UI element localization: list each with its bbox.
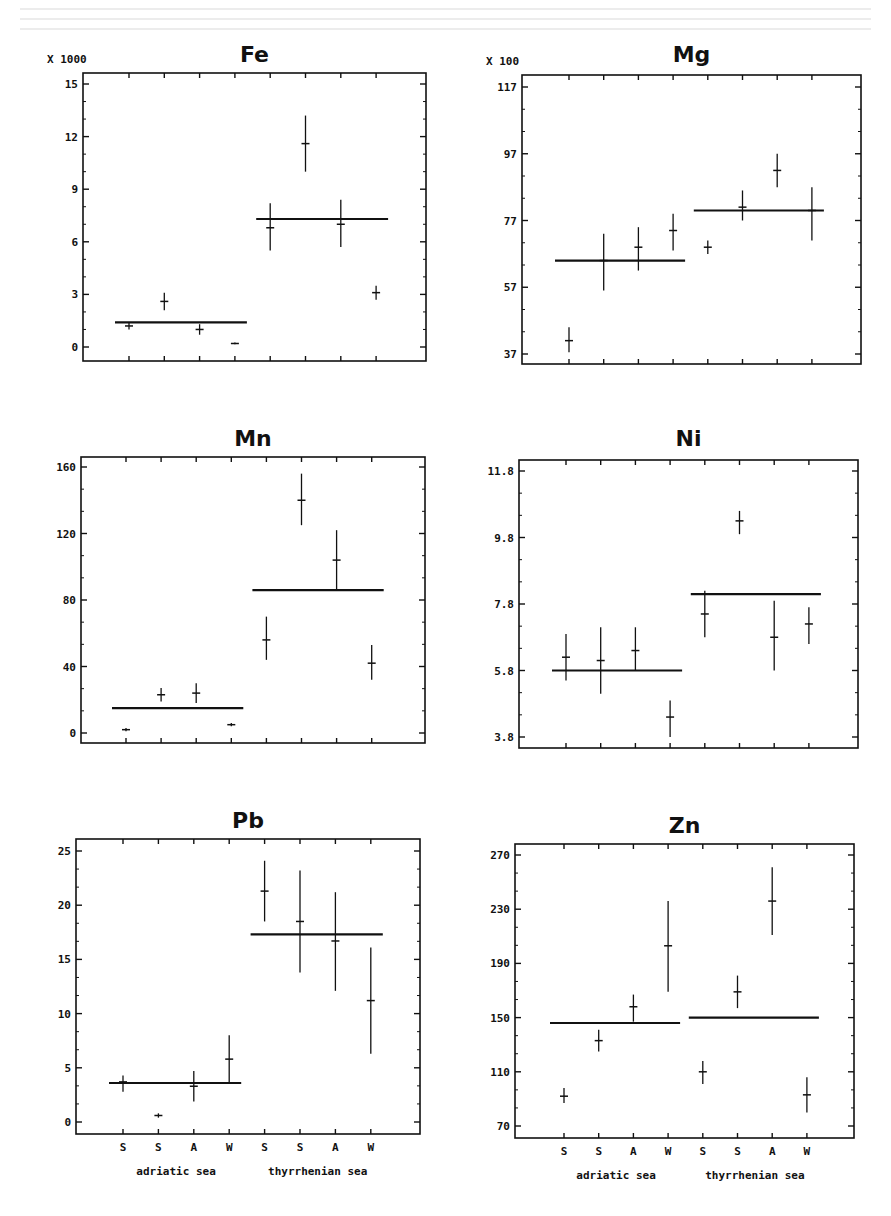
data-point [261,861,269,922]
plot-frame [76,839,420,1134]
data-point [337,200,345,247]
y-tick-label: 10 [58,1008,71,1021]
y-tick-label: 6 [71,236,78,249]
x-category-label: S [261,1141,268,1154]
y-tick-label: 120 [56,528,76,541]
x-category-label: S [297,1141,304,1154]
x-category-label: W [665,1145,672,1158]
data-point [231,343,239,345]
chart-mg: MgX 10037577797117 [486,42,861,364]
y-tick-label: 5.8 [494,665,514,678]
y-tick-label: 15 [65,78,78,91]
data-point [773,154,781,187]
chart-title: Mg [673,42,711,67]
data-point [298,474,306,526]
data-point [803,1077,811,1112]
data-point [631,627,639,670]
chart-zn: Zn70110150190230270SSAWSSAWadriatic seat… [490,813,854,1182]
data-point [770,601,778,671]
chart-title: Zn [669,813,701,838]
data-point [768,867,776,935]
data-point [664,901,672,992]
data-point [805,607,813,644]
data-point [368,645,376,680]
y-tick-label: 270 [490,849,510,862]
y-tick-label: 9.8 [494,532,514,545]
data-point [739,190,747,220]
y-tick-label: 25 [58,845,71,858]
data-point [736,511,744,534]
data-point [734,976,742,1009]
y-tick-label: 57 [504,281,517,294]
chart-fe: FeX 100003691215 [47,42,426,361]
data-point [196,324,204,335]
y-tick-label: 117 [497,81,517,94]
x-category-label: A [769,1145,776,1158]
y-tick-label: 5 [64,1062,71,1075]
x-category-label: S [155,1141,162,1154]
data-point [367,947,375,1053]
data-point [704,241,712,254]
y-tick-label: 160 [56,461,76,474]
y-tick-label: 77 [504,215,517,228]
data-point [302,116,310,172]
y-tick-label: 37 [504,348,517,361]
data-point [562,634,570,681]
x-group-label: thyrrhenian sea [268,1165,367,1178]
y-tick-label: 110 [490,1066,510,1079]
axis-multiplier-label: X 100 [486,55,519,68]
x-category-label: S [120,1141,127,1154]
y-tick-label: 97 [504,148,517,161]
chart-title: Ni [676,426,702,451]
x-group-label: thyrrhenian sea [705,1169,804,1182]
data-point [227,723,235,726]
data-point [595,1030,603,1052]
x-category-label: S [595,1145,602,1158]
data-point [262,617,270,660]
data-point [560,1088,568,1103]
data-point [808,187,816,240]
x-category-label: S [699,1145,706,1158]
figure-panel-grid: FeX 100003691215MgX 10037577797117Mn0408… [0,0,891,1216]
y-tick-label: 40 [63,661,76,674]
plot-frame [515,844,854,1138]
data-point [266,203,274,250]
data-point [565,327,573,352]
data-point [600,234,608,291]
y-tick-label: 15 [58,953,71,966]
y-tick-label: 11.8 [488,465,515,478]
y-tick-label: 150 [490,1012,510,1025]
y-tick-label: 70 [497,1120,510,1133]
x-group-label: adriatic sea [576,1169,655,1182]
data-point [192,683,200,703]
x-category-label: W [226,1141,233,1154]
y-tick-label: 0 [64,1116,71,1129]
chart-ni: Ni3.85.87.89.811.8 [488,426,859,748]
data-point [333,530,341,590]
data-point [296,871,304,973]
data-point [597,627,605,694]
x-category-label: W [804,1145,811,1158]
data-point [225,1035,233,1083]
chart-title: Mn [234,426,272,451]
data-point [634,227,642,270]
x-category-label: A [630,1145,637,1158]
plot-frame [519,460,858,748]
x-group-label: adriatic sea [136,1165,215,1178]
chart-title: Pb [232,808,264,833]
chart-title: Fe [240,42,269,67]
y-tick-label: 12 [65,131,78,144]
x-category-label: A [332,1141,339,1154]
chart-mn: Mn04080120160 [56,426,425,743]
x-category-label: S [561,1145,568,1158]
y-tick-label: 190 [490,957,510,970]
plot-frame [81,457,425,743]
data-point [629,995,637,1022]
x-category-label: S [734,1145,741,1158]
data-point [372,286,380,300]
charts-svg: FeX 100003691215MgX 10037577797117Mn0408… [0,0,891,1216]
data-point [699,1061,707,1084]
data-point [154,1113,162,1117]
y-tick-label: 3 [71,288,78,301]
data-point [669,214,677,251]
